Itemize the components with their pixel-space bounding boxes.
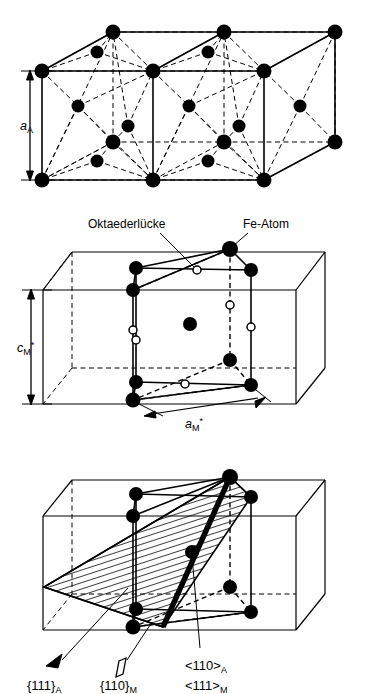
bct-diagram: Oktaederlücke Fe-Atom cM* aM* [0,200,367,432]
atom-node [217,135,232,150]
panel-austenite-fcc: aA [0,0,367,200]
atom-node [146,64,161,79]
atom-node [244,605,258,619]
interstice-node [247,323,255,331]
atom-node [106,135,121,150]
arrow-head-left [144,411,156,418]
atom-node [126,283,140,297]
atom-node [129,261,143,275]
interstice-node [226,301,234,309]
face-center-node [122,120,135,133]
atom-node [126,620,141,635]
atom-node [328,135,343,150]
notation-direction-110-A: <110>A [185,658,227,675]
atom-node [126,393,141,408]
panel-martensite-bct: Oktaederlücke Fe-Atom cM* aM* [0,200,367,432]
atom-node [129,375,143,389]
atom-node [257,64,272,79]
dimension-label-a-M: aM* [185,416,203,432]
atom-node [257,173,272,188]
atom-node [146,173,161,188]
body-center-atom-node [183,317,197,331]
face-center-node [91,155,104,168]
interstice-node [193,266,201,274]
atom-node [223,353,237,367]
face-center-node [202,155,215,168]
interstice-node [132,336,140,344]
notation-direction-111-M: <111>M [185,678,227,694]
atom-node [129,602,143,616]
dimension-label-a-A: aA [20,119,33,135]
face-center-node [294,100,307,113]
atom-node [222,469,238,485]
annotation-fe-atom: Fe-Atom [243,217,289,231]
atom-node [106,25,121,40]
annotation-oktaederluecke: Oktaederlücke [88,217,166,231]
interstice-node [129,326,137,334]
atom-node [223,580,237,594]
notation-plane-110-M: {110}M [100,678,137,694]
atom-node [129,487,143,501]
face-center-node [233,120,246,133]
face-center-node [183,100,196,113]
dimension-label-c-M: cM* [17,340,35,357]
marker-plane-111-A [46,654,62,668]
plane-diagram: {111}A {110}M <110>A <111>M [0,432,367,694]
panel-habit-plane: {111}A {110}M <110>A <111>M [0,432,367,694]
face-center-node [72,100,85,113]
face-center-node [202,46,215,59]
interstice-node [181,380,189,388]
marker-plane-110-M [116,658,126,677]
atom-node [244,263,258,277]
face-center-node [91,46,104,59]
fcc-diagram: aA [0,0,367,200]
atom-node [217,25,232,40]
notation-plane-111-A: {111}A [27,678,61,694]
atom-node [244,490,258,504]
atom-node [126,509,140,523]
atom-node [328,25,343,40]
